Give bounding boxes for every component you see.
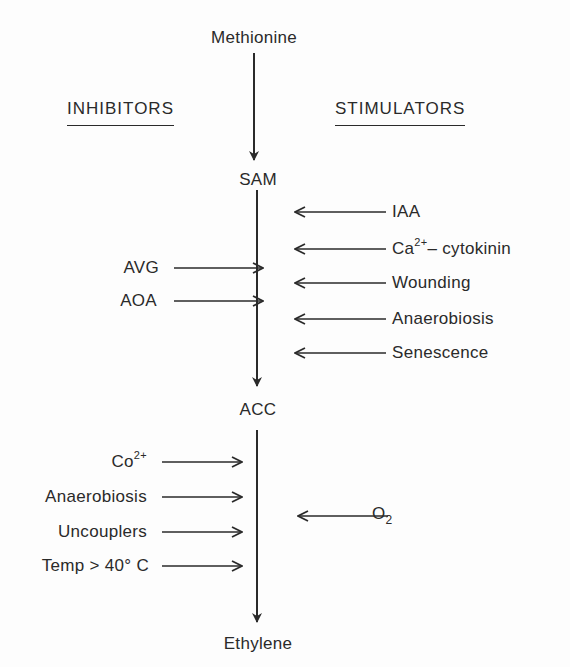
stimulator-wounding: Wounding (392, 273, 471, 293)
stimulator-senescence: Senescence (392, 343, 489, 363)
inhibitor-avg: AVG (123, 258, 159, 278)
inhibitor-anaerobiosis: Anaerobiosis (45, 487, 147, 507)
stimulator-arrows-sam-acc (295, 212, 386, 353)
inhibitor-aoa: AOA (120, 291, 157, 311)
stimulator-anaerobiosis: Anaerobiosis (392, 309, 494, 329)
node-methionine: Methionine (211, 28, 297, 48)
node-ethylene: Ethylene (224, 634, 293, 654)
node-sam: SAM (239, 170, 277, 190)
inhibitor-arrows-sam-acc (174, 268, 263, 301)
inhibitor-arrows-acc-ethylene (162, 462, 242, 566)
ethylene-pathway-diagram: Methionine SAM ACC Ethylene INHIBITORS S… (0, 0, 570, 667)
header-inhibitors: INHIBITORS (67, 99, 174, 126)
inhibitor-temp-above-40c: Temp > 40° C (42, 556, 149, 576)
stimulator-iaa: IAA (392, 202, 420, 222)
stimulator-ca-cytokinin: Ca2+– cytokinin (392, 239, 511, 259)
inhibitor-uncouplers: Uncouplers (58, 522, 147, 542)
node-acc: ACC (240, 400, 277, 420)
main-pathway-arrows (254, 53, 257, 622)
inhibitor-cobalt: Co2+ (112, 452, 148, 472)
stimulator-oxygen: O2 (372, 504, 393, 524)
header-stimulators: STIMULATORS (335, 99, 465, 126)
